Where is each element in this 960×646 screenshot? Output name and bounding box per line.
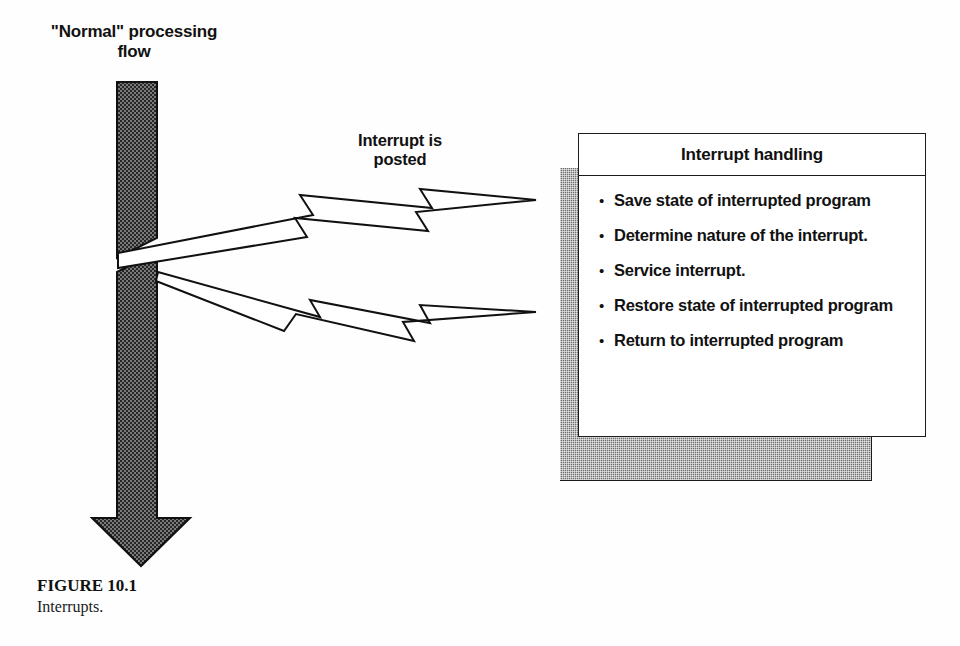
bullet-point-icon: •	[599, 225, 614, 246]
flow-arrow-lower-segment	[92, 252, 190, 566]
flow-arrow-upper-segment	[117, 82, 157, 258]
list-item: • Service interrupt.	[599, 260, 917, 281]
list-item-label: Determine nature of the interrupt.	[614, 225, 917, 246]
normal-processing-flow-label: "Normal" processing flow	[14, 22, 254, 62]
panel-header: Interrupt handling	[579, 134, 925, 176]
interrupt-is-posted-label: Interrupt is posted	[312, 131, 488, 170]
list-item-label: Save state of interrupted program	[614, 190, 917, 211]
interrupt-handling-panel: Interrupt handling • Save state of inter…	[578, 133, 926, 437]
bullet-point-icon: •	[599, 260, 614, 281]
list-item: • Save state of interrupted program	[599, 190, 917, 211]
figure-caption-text: Interrupts.	[37, 597, 457, 616]
return-lightning-bolt	[118, 189, 536, 268]
list-item: • Return to interrupted program	[599, 330, 917, 351]
bullet-point-icon: •	[599, 330, 614, 351]
bullet-point-icon: •	[599, 295, 614, 316]
list-item-label: Restore state of interrupted program	[614, 295, 917, 316]
figure-caption: FIGURE 10.1 Interrupts.	[37, 576, 457, 616]
panel-bullet-list: • Save state of interrupted program • De…	[579, 176, 925, 351]
list-item-label: Service interrupt.	[614, 260, 917, 281]
figure-number: FIGURE 10.1	[37, 576, 457, 596]
interrupt-lightning-bolt	[156, 272, 536, 341]
bullet-point-icon: •	[599, 190, 614, 211]
list-item: • Restore state of interrupted program	[599, 295, 917, 316]
list-item-label: Return to interrupted program	[614, 330, 917, 351]
panel-title: Interrupt handling	[681, 145, 823, 165]
figure-canvas: Interrupt handling • Save state of inter…	[0, 0, 960, 646]
list-item: • Determine nature of the interrupt.	[599, 225, 917, 246]
